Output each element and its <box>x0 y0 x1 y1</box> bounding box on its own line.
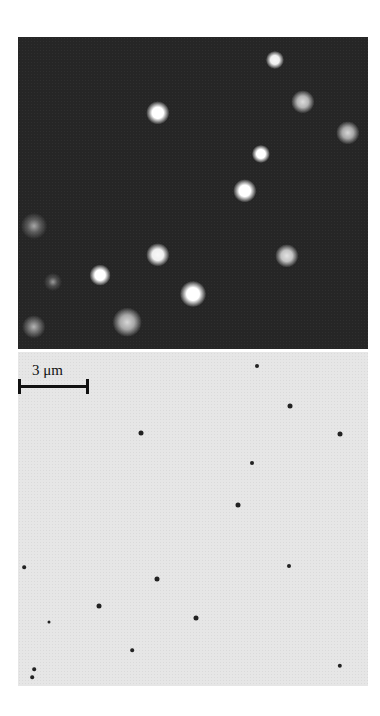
particle-dot <box>97 604 102 609</box>
particle-dot <box>48 621 51 624</box>
particle-dot <box>338 432 343 437</box>
particle-dot <box>22 565 26 569</box>
particle-dot <box>194 616 199 621</box>
scale-bar: 3 μm <box>18 362 90 386</box>
particle-dot <box>139 431 144 436</box>
particle-dot <box>236 503 241 508</box>
scale-bar-cap-right <box>86 379 89 394</box>
particle-dot <box>287 564 291 568</box>
particle-dot <box>130 648 134 652</box>
fluorescent-spot <box>90 265 111 286</box>
particle-dot <box>32 667 36 671</box>
particle-dot <box>255 364 259 368</box>
fluorescent-spot <box>113 308 142 337</box>
scale-bar-label: 3 μm <box>32 362 63 379</box>
particle-dot <box>30 675 34 679</box>
particle-dot <box>288 404 293 409</box>
fluorescent-spot <box>180 281 206 307</box>
fluorescent-spot <box>21 213 47 239</box>
brightfield-image-panel <box>18 352 368 686</box>
particle-dot <box>250 461 254 465</box>
scale-bar-line <box>20 385 88 388</box>
particle-dot <box>155 577 160 582</box>
